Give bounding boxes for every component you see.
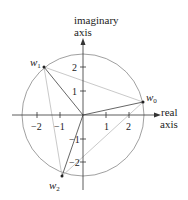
real-tick-2: 2 xyxy=(126,121,131,132)
point-w1 xyxy=(43,66,46,69)
imag-tick-2: 2 xyxy=(72,62,77,73)
imag-tick-neg2: −2 xyxy=(69,157,80,168)
real-tick-neg1: −1 xyxy=(54,121,65,132)
imag-tick-1: 1 xyxy=(72,86,77,97)
imaginary-axis-label-line1: imaginary xyxy=(74,15,119,26)
real-axis-arrow-icon xyxy=(154,113,161,118)
diagram-canvas xyxy=(0,0,188,200)
imaginary-axis-label-line2: axis xyxy=(74,27,92,38)
real-tick-1: 1 xyxy=(104,121,109,132)
label-w2: w2 xyxy=(49,180,60,195)
label-w0: w0 xyxy=(146,92,157,107)
point-w0 xyxy=(142,101,145,104)
imaginary-axis-arrow-icon xyxy=(81,38,86,45)
real-tick-neg2: −2 xyxy=(31,121,42,132)
imag-tick-neg1: −1 xyxy=(69,134,80,145)
point-w2 xyxy=(61,175,64,178)
real-axis-label-line1: real xyxy=(161,107,177,118)
label-w1: w1 xyxy=(30,57,41,72)
complex-plane-diagram: imaginary axis real axis −2 −1 1 2 2 1 −… xyxy=(0,0,188,200)
real-axis-label-line2: axis xyxy=(160,119,178,130)
